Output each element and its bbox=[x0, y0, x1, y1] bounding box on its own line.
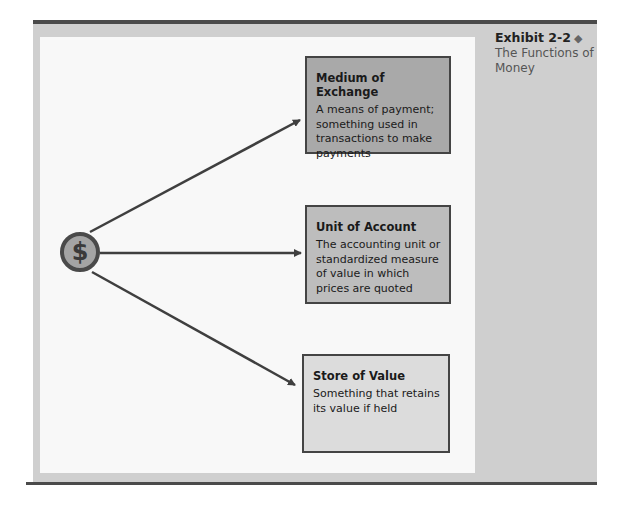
function-box-store-of-value: Store of Value Something that retains it… bbox=[302, 354, 450, 453]
function-box-medium-of-exchange: Medium of Exchange A means of payment; s… bbox=[305, 56, 451, 154]
arrow-to-store-of-value bbox=[92, 272, 295, 385]
function-title: Unit of Account bbox=[316, 220, 442, 234]
arrow-to-medium-of-exchange bbox=[90, 120, 300, 232]
function-box-unit-of-account: Unit of Account The accounting unit or s… bbox=[305, 205, 451, 304]
dollar-symbol: $ bbox=[72, 238, 89, 266]
function-title: Medium of Exchange bbox=[316, 71, 442, 99]
function-description: Something that retains its value if held bbox=[313, 387, 441, 416]
function-description: The accounting unit or standardized meas… bbox=[316, 238, 442, 296]
function-title: Store of Value bbox=[313, 369, 441, 383]
function-description: A means of payment; something used in tr… bbox=[316, 103, 442, 161]
bottom-rule bbox=[26, 482, 597, 485]
dollar-coin-icon: $ bbox=[60, 232, 100, 272]
